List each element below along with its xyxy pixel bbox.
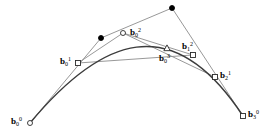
label-b2-1: b21 <box>220 70 231 81</box>
label-superscript: 3 <box>167 53 170 59</box>
label-superscript: 0 <box>256 109 259 115</box>
label-b3-0: b30 <box>248 109 259 120</box>
marker-b3-0 <box>241 114 246 119</box>
label-superscript: 1 <box>228 70 231 76</box>
label-b0-2: b02 <box>130 27 141 38</box>
marker-b2-1 <box>213 75 218 80</box>
bezier-subdivision-figure: b00b30b01b21b02b12b03 <box>0 0 272 140</box>
label-superscript: 2 <box>138 27 141 33</box>
label-b0-3: b03 <box>159 53 170 64</box>
label-b1-2: b12 <box>182 41 193 52</box>
label-superscript: 2 <box>190 41 193 47</box>
marker-b2-0 <box>170 6 175 11</box>
label-b0-1: b01 <box>60 56 71 67</box>
label-b0-0: b00 <box>11 116 22 127</box>
construction-line-3 <box>78 55 193 63</box>
marker-b1-1 <box>121 31 126 36</box>
figure-canvas <box>0 0 272 140</box>
label-superscript: 0 <box>19 116 22 122</box>
marker-b1-0 <box>99 36 104 41</box>
label-superscript: 1 <box>68 56 71 62</box>
marker-b0-1 <box>76 61 81 66</box>
marker-b1-2 <box>191 53 196 58</box>
marker-b0-0 <box>28 121 33 126</box>
